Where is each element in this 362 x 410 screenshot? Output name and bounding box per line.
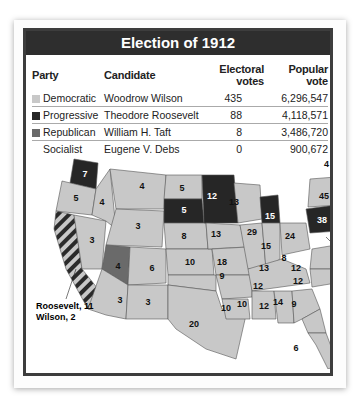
col-party: Party — [32, 61, 104, 90]
svg-text:13: 13 — [211, 229, 221, 239]
svg-text:7: 7 — [82, 169, 87, 179]
svg-text:4: 4 — [139, 181, 144, 191]
svg-text:9: 9 — [219, 271, 224, 281]
svg-text:12: 12 — [291, 263, 301, 273]
svg-text:24: 24 — [285, 231, 295, 241]
chart-title: Election of 1912 — [26, 31, 330, 55]
svg-text:12: 12 — [207, 191, 217, 201]
table-row: Democratic Woodrow Wilson 435 6,296,547 — [32, 90, 328, 107]
svg-text:5: 5 — [181, 205, 186, 215]
svg-text:10: 10 — [237, 299, 247, 309]
svg-text:8: 8 — [181, 231, 186, 241]
svg-text:15: 15 — [265, 211, 275, 221]
col-popular: Popular vote — [264, 61, 328, 90]
democratic-swatch — [32, 95, 40, 103]
svg-text:3: 3 — [89, 235, 94, 245]
party-label: Democratic — [43, 92, 96, 104]
svg-text:3: 3 — [135, 221, 140, 231]
svg-text:12: 12 — [253, 281, 263, 291]
svg-text:10: 10 — [221, 303, 231, 313]
svg-text:20: 20 — [189, 319, 199, 329]
col-candidate: Candidate — [104, 61, 204, 90]
svg-text:13: 13 — [259, 263, 269, 273]
popular: 6,296,547 — [264, 90, 328, 107]
svg-text:4: 4 — [324, 159, 329, 169]
election-card: Election of 1912 Party Candidate Elector… — [14, 20, 346, 388]
col-electoral: Electoral votes — [204, 61, 264, 90]
svg-text:13: 13 — [229, 197, 239, 207]
california-callout: Roosevelt, 11 Wilson, 2 — [36, 301, 94, 323]
svg-text:5: 5 — [179, 183, 184, 193]
svg-text:12: 12 — [259, 301, 269, 311]
svg-text:29: 29 — [247, 227, 257, 237]
svg-text:38: 38 — [317, 215, 327, 225]
svg-text:6: 6 — [149, 263, 154, 273]
svg-text:4: 4 — [99, 197, 104, 207]
svg-text:45: 45 — [319, 191, 329, 201]
svg-text:8: 8 — [281, 253, 286, 263]
svg-text:14: 14 — [273, 297, 283, 307]
callout-wilson: Wilson, 2 — [36, 312, 94, 323]
svg-text:3: 3 — [145, 297, 150, 307]
svg-text:12: 12 — [293, 276, 303, 286]
svg-text:4: 4 — [115, 261, 120, 271]
svg-text:3: 3 — [117, 295, 122, 305]
svg-text:18: 18 — [217, 257, 227, 267]
svg-text:15: 15 — [261, 241, 271, 251]
svg-text:10: 10 — [185, 257, 195, 267]
us-electoral-map: 7 5 4 4 3 3 4 6 3 3 5 5 12 8 10 20 13 13… — [26, 119, 330, 369]
svg-text:5: 5 — [73, 193, 78, 203]
svg-text:9: 9 — [291, 299, 296, 309]
callout-roosevelt: Roosevelt, 11 — [36, 301, 94, 312]
electoral: 435 — [204, 90, 264, 107]
svg-text:6: 6 — [293, 343, 298, 353]
candidate: Woodrow Wilson — [104, 90, 204, 107]
frame: Election of 1912 Party Candidate Elector… — [23, 28, 333, 376]
